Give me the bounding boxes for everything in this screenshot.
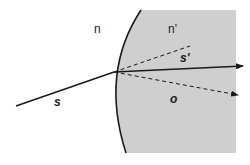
incident-ray [16,72,114,106]
label-s: s [54,95,61,109]
refraction-diagram: n n' s s' o [0,0,250,165]
label-s-prime: s' [180,51,191,65]
label-n: n [94,22,101,36]
label-o: o [170,92,177,106]
label-n-prime: n' [168,22,177,36]
